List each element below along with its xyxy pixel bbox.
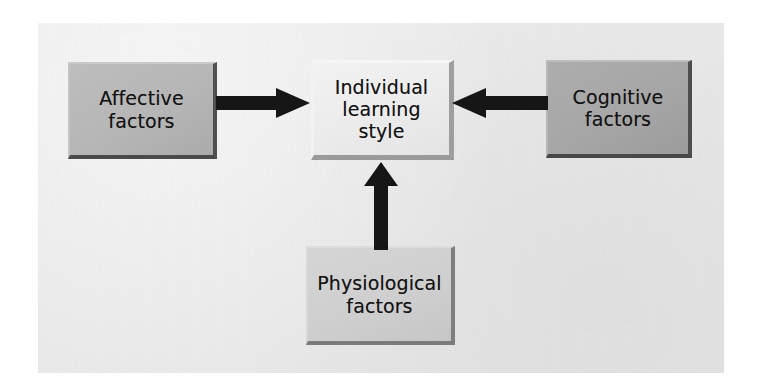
node-cognitive-factors[interactable]: Cognitive factors — [546, 60, 692, 158]
node-physiological-factors-label: Physiological factors — [313, 272, 445, 316]
arrow-right-icon-affective-to-individual — [216, 86, 310, 120]
node-physiological-factors[interactable]: Physiological factors — [306, 246, 455, 345]
node-cognitive-factors-label: Cognitive factors — [569, 86, 668, 130]
diagram-canvas: Affective factors Individual learning st… — [0, 0, 759, 390]
node-individual-learning-style-label: Individual learning style — [331, 76, 433, 142]
arrow-up-icon-physiological-to-individual — [363, 162, 399, 250]
arrow-left-icon-cognitive-to-individual — [452, 86, 548, 120]
node-affective-factors-label: Affective factors — [95, 87, 187, 131]
node-affective-factors[interactable]: Affective factors — [68, 62, 217, 159]
node-individual-learning-style[interactable]: Individual learning style — [311, 60, 454, 160]
